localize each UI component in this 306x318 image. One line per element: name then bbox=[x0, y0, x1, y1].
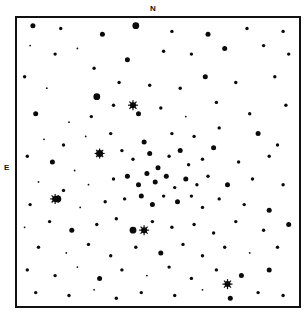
star bbox=[243, 203, 246, 206]
star bbox=[206, 175, 209, 178]
star bbox=[262, 44, 265, 47]
star bbox=[140, 291, 143, 294]
star bbox=[77, 48, 79, 50]
star bbox=[77, 266, 79, 268]
star bbox=[142, 140, 147, 145]
star bbox=[117, 81, 120, 84]
star bbox=[151, 220, 154, 223]
star bbox=[211, 145, 216, 150]
star bbox=[95, 223, 98, 226]
chart-frame bbox=[16, 17, 300, 307]
bright-star bbox=[223, 279, 233, 289]
star bbox=[249, 252, 251, 254]
star bbox=[139, 194, 144, 199]
star bbox=[79, 207, 81, 209]
star bbox=[222, 46, 227, 51]
star bbox=[158, 250, 163, 255]
star bbox=[125, 174, 130, 179]
star bbox=[190, 194, 193, 197]
star bbox=[170, 30, 173, 33]
star bbox=[202, 289, 204, 291]
star bbox=[29, 45, 31, 47]
star bbox=[201, 206, 204, 209]
star bbox=[167, 265, 170, 268]
star bbox=[28, 203, 31, 206]
finder-chart bbox=[0, 0, 306, 318]
star bbox=[251, 177, 254, 180]
star bbox=[245, 27, 248, 30]
bright-star bbox=[139, 225, 149, 235]
star bbox=[85, 136, 87, 138]
star bbox=[24, 226, 26, 228]
star bbox=[67, 294, 70, 297]
star bbox=[234, 220, 237, 223]
star bbox=[201, 254, 204, 257]
star bbox=[34, 291, 37, 294]
star bbox=[62, 189, 65, 192]
star bbox=[281, 30, 284, 33]
star bbox=[131, 158, 134, 161]
star bbox=[97, 276, 102, 281]
star bbox=[192, 223, 195, 226]
star bbox=[53, 274, 56, 277]
star bbox=[88, 184, 90, 186]
star bbox=[181, 243, 184, 246]
star bbox=[147, 151, 152, 156]
star bbox=[223, 246, 226, 249]
star bbox=[104, 200, 107, 203]
star bbox=[225, 182, 230, 187]
star bbox=[234, 81, 237, 84]
star bbox=[37, 246, 40, 249]
star bbox=[38, 181, 40, 183]
bright-star bbox=[50, 194, 60, 204]
star bbox=[53, 52, 56, 55]
star bbox=[203, 74, 208, 79]
star bbox=[162, 194, 165, 197]
star bbox=[120, 268, 123, 271]
star bbox=[109, 254, 112, 257]
star bbox=[276, 246, 279, 249]
star bbox=[46, 87, 48, 89]
star bbox=[256, 131, 261, 136]
star bbox=[130, 227, 137, 234]
star bbox=[256, 291, 259, 294]
star bbox=[218, 126, 221, 129]
star bbox=[162, 50, 165, 53]
star bbox=[23, 75, 26, 78]
star bbox=[115, 217, 118, 220]
star bbox=[48, 220, 51, 223]
star bbox=[93, 289, 95, 291]
star bbox=[206, 32, 211, 37]
star bbox=[268, 155, 271, 158]
star bbox=[281, 183, 284, 186]
star bbox=[74, 170, 76, 172]
star bbox=[50, 160, 55, 165]
star bbox=[68, 121, 70, 123]
star bbox=[90, 115, 93, 118]
star bbox=[26, 155, 29, 158]
star bbox=[267, 267, 272, 272]
star bbox=[43, 138, 45, 140]
star bbox=[112, 177, 115, 180]
star-field bbox=[23, 22, 291, 301]
star bbox=[109, 132, 112, 135]
star bbox=[150, 202, 155, 207]
star bbox=[248, 112, 251, 115]
star bbox=[215, 101, 218, 104]
star bbox=[190, 52, 193, 55]
star bbox=[183, 177, 188, 182]
star bbox=[69, 228, 74, 233]
bright-star bbox=[95, 148, 105, 158]
star bbox=[159, 106, 162, 109]
star bbox=[179, 87, 182, 90]
star bbox=[100, 32, 105, 37]
star bbox=[125, 57, 130, 62]
star bbox=[185, 116, 187, 118]
star bbox=[273, 75, 276, 78]
star bbox=[284, 104, 287, 107]
star bbox=[136, 182, 141, 187]
star bbox=[175, 199, 180, 204]
star bbox=[123, 197, 126, 200]
star bbox=[267, 208, 272, 213]
star bbox=[286, 222, 291, 227]
